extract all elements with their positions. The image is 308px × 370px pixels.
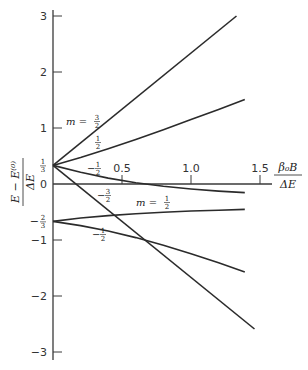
svg-text:3: 3 <box>41 222 45 230</box>
series-line: m = 3/2 <box>53 16 237 165</box>
x-tick-label: 1.5 <box>251 162 269 175</box>
curve-label-low12: m = 12 <box>136 195 170 211</box>
chart-plot: 3210−1−2−313−230.51.01.5 m = 3/2m = 1/2 … <box>0 0 308 370</box>
y-tick-label: 1 <box>40 122 47 135</box>
svg-text:2: 2 <box>96 143 100 151</box>
svg-text:−: − <box>92 229 100 240</box>
y-fraction-label: 13 <box>40 158 46 174</box>
svg-text:1: 1 <box>96 135 100 143</box>
svg-text:ΔE: ΔE <box>24 174 37 191</box>
svg-text:β₀B: β₀B <box>278 161 298 174</box>
curve-label-lowm12: −12 <box>92 227 106 243</box>
svg-text:3: 3 <box>41 166 45 174</box>
svg-text:2: 2 <box>96 169 100 177</box>
svg-text:−: − <box>30 215 39 228</box>
y-fraction-label: −23 <box>30 214 46 230</box>
y-tick-label: −1 <box>31 234 47 247</box>
x-tick-label: 1.0 <box>182 162 200 175</box>
svg-text:ΔE: ΔE <box>279 178 296 191</box>
curve-label-up12: 12 <box>95 135 101 151</box>
svg-text:3: 3 <box>95 114 99 122</box>
svg-text:−: − <box>97 190 105 201</box>
svg-text:m =: m = <box>136 197 157 208</box>
series-line: m = -1/2 (lower) <box>53 221 245 272</box>
svg-text:2: 2 <box>95 122 99 130</box>
svg-text:1: 1 <box>96 161 100 169</box>
svg-text:1: 1 <box>165 195 169 203</box>
svg-text:2: 2 <box>41 214 45 222</box>
svg-text:E − E⁽⁰⁾: E − E⁽⁰⁾ <box>9 161 22 204</box>
svg-text:1: 1 <box>41 158 45 166</box>
y-axis-title: E − E⁽⁰⁾ ΔE <box>9 158 37 206</box>
svg-text:2: 2 <box>106 196 110 204</box>
svg-text:3: 3 <box>106 188 110 196</box>
series-line: m = 1/2 (lower) <box>53 209 245 221</box>
x-tick-label: 0.5 <box>113 162 131 175</box>
y-tick-label: −2 <box>31 290 47 303</box>
svg-text:2: 2 <box>165 203 169 211</box>
y-tick-label: 3 <box>40 10 47 23</box>
svg-text:m =: m = <box>66 116 87 127</box>
series-lines: m = 3/2m = 1/2 (upper)m = -1/2 (upper)m … <box>53 16 255 329</box>
svg-text:−: − <box>87 163 95 174</box>
series-line: m = -3/2 <box>53 165 255 329</box>
x-axis-title: β₀B ΔE <box>274 161 302 191</box>
y-tick-label: −3 <box>31 346 47 359</box>
curve-label-m32neg: −32 <box>97 188 111 204</box>
curve-label-m32: m = 32 <box>66 114 100 130</box>
series-line: m = 1/2 (upper) <box>53 99 245 165</box>
y-tick-label: 2 <box>40 66 47 79</box>
y-tick-label: 0 <box>40 178 47 191</box>
svg-text:1: 1 <box>101 227 105 235</box>
svg-text:2: 2 <box>101 235 105 243</box>
